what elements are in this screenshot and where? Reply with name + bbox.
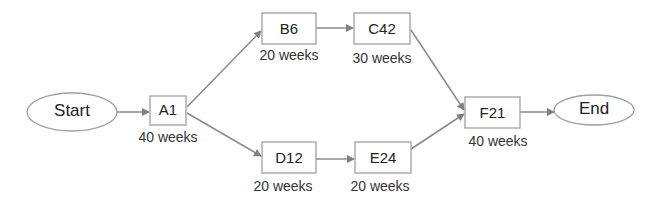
duration-a1: 40 weeks (138, 129, 198, 145)
duration-f21: 40 weeks (468, 133, 528, 149)
network-diagram: Start A1 40 weeks B6 20 weeks C42 30 wee… (0, 0, 660, 200)
edge-a1-b6 (187, 31, 261, 107)
edge-e24-f21 (411, 114, 464, 149)
node-a1: A1 (150, 101, 186, 118)
node-f21: F21 (465, 104, 520, 121)
node-start: Start (27, 101, 117, 121)
node-b6: B6 (262, 20, 316, 37)
duration-c42: 30 weeks (352, 50, 412, 66)
duration-d12: 20 weeks (253, 178, 313, 194)
duration-e24: 20 weeks (350, 178, 410, 194)
node-e24: E24 (355, 149, 411, 166)
node-c42: C42 (354, 20, 410, 37)
node-end: End (554, 99, 634, 119)
node-d12: D12 (262, 149, 316, 166)
edge-c42-f21 (411, 30, 464, 110)
edge-a1-d12 (187, 113, 261, 156)
duration-b6: 20 weeks (259, 47, 319, 63)
